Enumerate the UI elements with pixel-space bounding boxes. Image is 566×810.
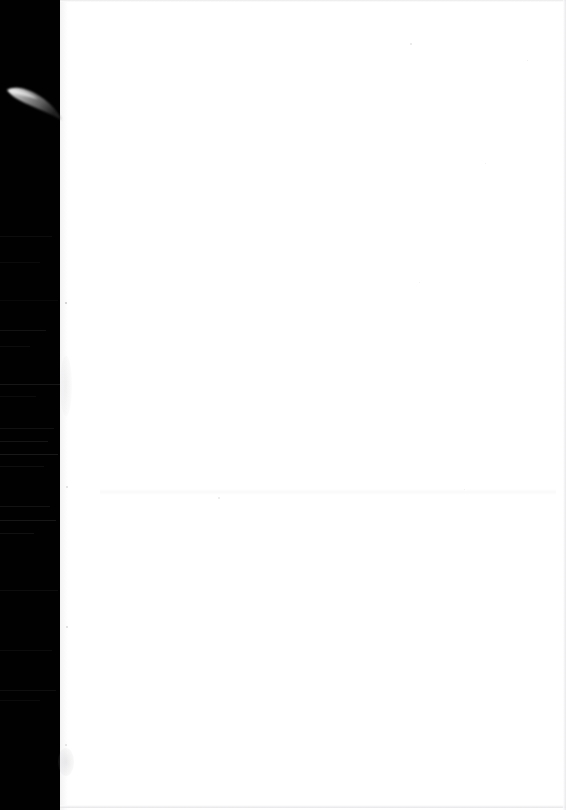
scanned-page [0, 0, 566, 810]
scanner-streak [0, 441, 48, 442]
scanner-streak [0, 520, 56, 521]
scanner-streak [0, 690, 56, 691]
scanner-streak [0, 262, 40, 263]
scanner-bed-margin [0, 0, 64, 810]
scanner-streak [0, 533, 34, 534]
scanner-streak [0, 384, 60, 385]
scanner-streak [0, 236, 52, 237]
scanner-streak [0, 466, 44, 467]
scanner-streak [0, 506, 50, 507]
scanner-streak [0, 454, 58, 455]
paper-gutter-shadow [60, 0, 68, 810]
scanner-streak [0, 428, 54, 429]
scanner-streak [0, 330, 46, 331]
paper-edge-bottom [60, 805, 566, 808]
scanner-streak [0, 700, 40, 701]
scanner-streak [0, 396, 36, 397]
scanner-streak [0, 650, 52, 651]
page-content-area [72, 20, 554, 790]
paper-edge-top [60, 0, 566, 2]
scanner-streak [0, 590, 58, 591]
scanner-streak [0, 346, 30, 347]
scanner-streak [0, 300, 58, 301]
